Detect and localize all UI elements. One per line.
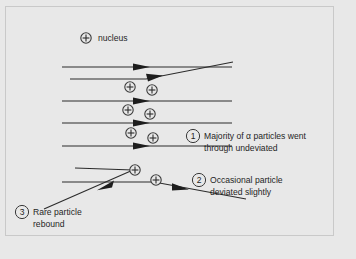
beam-rebound (44, 168, 133, 209)
callout-line-2: rebound (33, 219, 65, 229)
callout-line-2: through undeviated (204, 143, 278, 153)
nucleus-3 (123, 105, 133, 115)
nucleus-5 (126, 128, 136, 138)
nucleus-6 (148, 133, 158, 143)
callout-line-1: Rare particle (33, 207, 82, 217)
beam-undeviated-3 (62, 119, 232, 126)
callout-3: 3 Rare particle rebound (15, 205, 82, 229)
nucleus-7 (130, 165, 140, 175)
callout-number: 3 (20, 207, 25, 217)
arrow-right-icon (133, 97, 150, 104)
beam-deviated-up (70, 62, 233, 82)
figure-frame (6, 7, 334, 236)
callout-line-2: deviated slightly (210, 187, 272, 197)
legend-nucleus-key: nucleus (81, 33, 128, 43)
callout-number: 1 (191, 131, 196, 141)
nucleus-1 (125, 82, 135, 92)
diagram-canvas: nucleus (0, 0, 356, 259)
nucleus-2 (147, 85, 157, 95)
beam-undeviated-2 (62, 97, 232, 104)
arrow-right-icon (133, 119, 150, 126)
arrow-right-up-icon (146, 74, 163, 82)
arrow-right-icon (133, 142, 150, 149)
callout-2: 2 Occasional particle deviated slightly (192, 173, 282, 197)
nucleus-8 (151, 175, 161, 185)
arrow-right-icon (133, 63, 150, 70)
callout-1: 1 Majority of α particles went through u… (186, 129, 306, 153)
callout-number: 2 (197, 175, 202, 185)
arrow-right-down-icon (172, 183, 189, 190)
legend-nucleus-label: nucleus (98, 33, 128, 43)
callout-line-1: Occasional particle (210, 175, 283, 185)
beam-path (44, 168, 133, 209)
nucleus-4 (145, 109, 155, 119)
callout-line-1: Majority of α particles went (204, 131, 307, 141)
scattering-diagram-figure: nucleus (0, 0, 356, 259)
